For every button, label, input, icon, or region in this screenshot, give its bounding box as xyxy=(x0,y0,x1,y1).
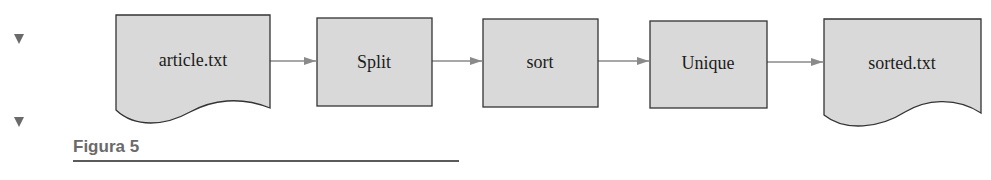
node-label: Unique xyxy=(682,53,735,73)
node-split: Split xyxy=(317,18,432,106)
node-label: article.txt xyxy=(159,50,227,70)
figure-caption: Figura 5 xyxy=(73,137,139,157)
node-article-txt: article.txt xyxy=(116,15,270,123)
node-label: sorted.txt xyxy=(868,53,936,73)
node-sort: sort xyxy=(483,19,598,107)
node-label: sort xyxy=(527,52,554,72)
flow-diagram: article.txt Split sort Unique sorted.txt xyxy=(0,0,991,180)
caption-underline xyxy=(73,160,459,162)
node-sorted-txt: sorted.txt xyxy=(824,19,981,126)
node-label: Split xyxy=(357,52,391,72)
node-unique: Unique xyxy=(650,21,767,108)
